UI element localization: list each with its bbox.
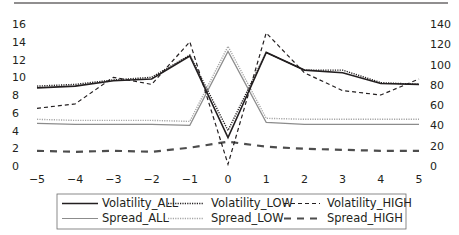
right-y-tick-label: 0 <box>430 160 437 173</box>
legend-label: Spread_LOW <box>211 211 284 225</box>
legend-label: Spread_ALL <box>102 211 170 225</box>
legend-label: Volatility_LOW <box>211 196 293 210</box>
legend-label: Spread_HIGH <box>327 211 403 225</box>
series-spread-all <box>37 51 419 125</box>
right-y-axis: 020406080100120140 <box>430 18 451 173</box>
left-y-tick-label: 4 <box>12 125 19 138</box>
legend-label: Volatility_ALL <box>102 196 179 210</box>
x-tick-label: 1 <box>263 173 270 186</box>
right-y-tick-label: 80 <box>430 79 444 92</box>
right-y-tick-label: 100 <box>430 59 451 72</box>
x-tick-label: −4 <box>67 173 83 186</box>
plot-area <box>37 33 419 164</box>
right-y-tick-label: 40 <box>430 119 444 132</box>
right-y-tick-label: 20 <box>430 140 444 153</box>
left-y-tick-label: 6 <box>12 107 19 120</box>
series-volatility-low <box>37 52 419 130</box>
x-tick-label: −1 <box>182 173 198 186</box>
x-tick-label: 3 <box>339 173 346 186</box>
left-y-tick-label: 14 <box>12 36 26 49</box>
x-tick-label: 0 <box>225 173 232 186</box>
x-tick-label: −2 <box>143 173 159 186</box>
right-y-tick-label: 60 <box>430 99 444 112</box>
x-tick-label: 2 <box>301 173 308 186</box>
legend: Volatility_ALLVolatility_LOWVolatility_H… <box>57 194 412 229</box>
right-y-tick-label: 120 <box>430 38 451 51</box>
x-tick-label: −3 <box>105 173 121 186</box>
left-y-tick-label: 0 <box>12 160 19 173</box>
left-y-tick-label: 2 <box>12 142 19 155</box>
left-y-tick-label: 8 <box>12 89 19 102</box>
right-y-tick-label: 140 <box>430 18 451 31</box>
left-y-tick-label: 12 <box>12 54 26 67</box>
x-tick-label: −5 <box>29 173 45 186</box>
chart: 0246810121416 020406080100120140 −5−4−3−… <box>0 0 459 235</box>
left-y-tick-label: 16 <box>12 18 26 31</box>
left-y-axis: 0246810121416 <box>12 18 26 173</box>
x-tick-label: 5 <box>416 173 423 186</box>
left-y-tick-label: 10 <box>12 71 26 84</box>
x-axis: −5−4−3−2−1012345 <box>29 173 423 186</box>
series-spread-high <box>37 142 419 152</box>
x-tick-label: 4 <box>377 173 384 186</box>
legend-label: Volatility_HIGH <box>327 196 412 210</box>
